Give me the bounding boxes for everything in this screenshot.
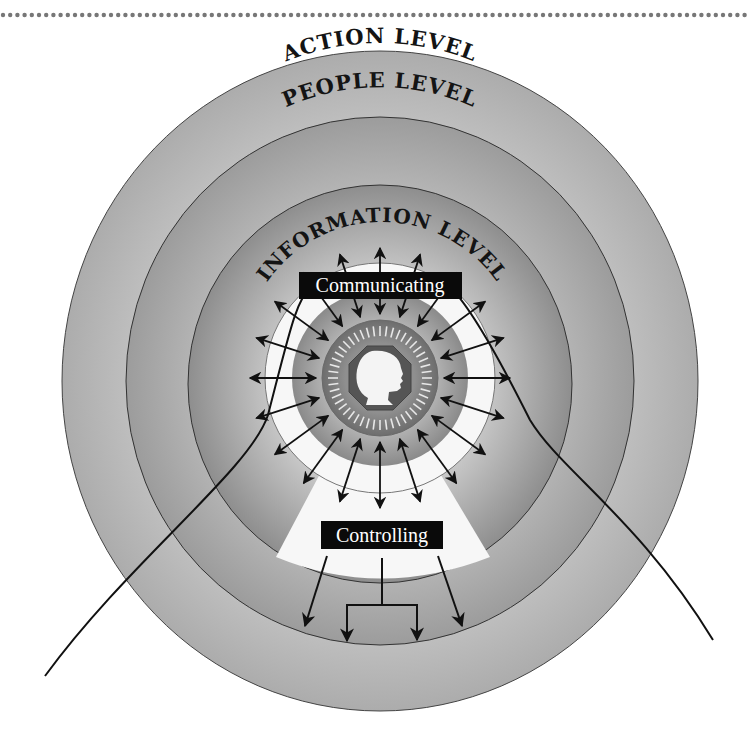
communicating-label: Communicating <box>316 274 445 297</box>
communication-levels-diagram: ACTION LEVEL PEOPLE LEVEL INFORMATION LE… <box>0 0 748 745</box>
controlling-label: Controlling <box>336 524 428 547</box>
